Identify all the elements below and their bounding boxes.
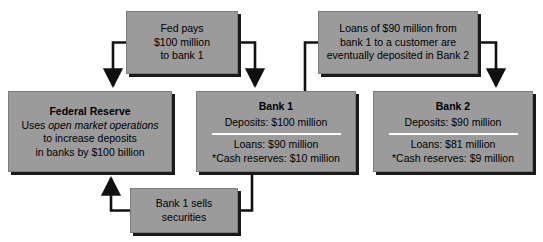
- fed-pays-line-2: $100 million: [154, 36, 210, 50]
- loans-note-line-2: bank 1 to a customer are: [340, 36, 456, 50]
- sells-securities-line-1: Bank 1 sells: [156, 197, 213, 211]
- fed-pays-line-3: to bank 1: [160, 49, 203, 63]
- bank-1-title: Bank 1: [259, 99, 293, 114]
- bank-2-deposits: Deposits: $90 million: [405, 115, 502, 129]
- connector-loans-note-to-bank-1: [305, 43, 318, 94]
- bank-2-ledger-rule: [389, 133, 518, 135]
- federal-reserve-line-3: in banks by $100 billion: [35, 146, 144, 160]
- federal-reserve-line-1-italic: open market operations: [48, 119, 158, 131]
- federal-reserve-title: Federal Reserve: [49, 104, 130, 119]
- bank-2-title: Bank 2: [436, 99, 470, 114]
- loans-note-line-1: Loans of $90 million from: [339, 22, 456, 36]
- federal-reserve-line-2: to increase deposits: [43, 132, 136, 146]
- bank-2-cash-reserves: *Cash reserves: $9 million: [392, 152, 514, 166]
- connector-bank-1-to-sells-securities: [238, 172, 252, 211]
- money-creation-diagram: Fed pays $100 million to bank 1 Loans of…: [0, 0, 543, 242]
- node-bank-2: Bank 2 Deposits: $90 million Loans: $81 …: [373, 91, 533, 172]
- bank-1-loans: Loans: $90 million: [234, 138, 319, 152]
- node-bank-1: Bank 1 Deposits: $100 million Loans: $90…: [196, 91, 356, 172]
- bank-1-cash-reserves: *Cash reserves: $10 million: [212, 152, 340, 166]
- connector-fed-pays-to-bank-1: [238, 43, 255, 87]
- node-fed-pays: Fed pays $100 million to bank 1: [126, 11, 238, 74]
- sells-securities-line-2: securities: [162, 211, 206, 225]
- bank-1-ledger-rule: [212, 133, 341, 135]
- node-loans-note: Loans of $90 million from bank 1 to a cu…: [318, 11, 478, 74]
- fed-pays-line-1: Fed pays: [160, 22, 203, 36]
- loans-note-line-3: eventually deposited in Bank 2: [327, 49, 469, 63]
- federal-reserve-line-1: Uses open market operations: [21, 119, 158, 133]
- connector-loans-note-to-bank-2: [478, 43, 496, 87]
- federal-reserve-line-1-prefix: Uses: [21, 119, 48, 131]
- connector-sells-securities-to-federal-reserve: [111, 178, 130, 211]
- connector-fed-pays-to-federal-reserve: [113, 43, 126, 87]
- bank-1-deposits: Deposits: $100 million: [225, 115, 328, 129]
- node-sells-securities: Bank 1 sells securities: [130, 188, 238, 233]
- node-federal-reserve: Federal Reserve Uses open market operati…: [8, 91, 172, 172]
- bank-2-loans: Loans: $81 million: [411, 138, 496, 152]
